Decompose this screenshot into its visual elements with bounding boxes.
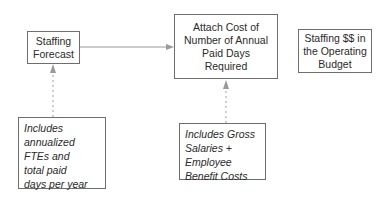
staffing-forecast-box: Staffing Forecast <box>27 31 80 64</box>
staffing-budget-box: Staffing $$ in the Operating Budget <box>298 29 372 73</box>
arrow-head-icon <box>50 64 56 73</box>
note-text: Salaries + <box>185 141 265 155</box>
note-text: Includes Gross <box>185 127 265 141</box>
box-text: Staffing <box>33 35 74 48</box>
note-text: days per year <box>24 177 105 191</box>
note-text: Benefit Costs <box>185 169 265 183</box>
note-text: FTEs and <box>24 149 105 163</box>
box-text: the Operating <box>303 45 367 58</box>
arrow-head-icon <box>223 80 229 89</box>
forecast-note-box: Includes annualized FTEs and total paid … <box>18 117 106 189</box>
box-text: Paid Days <box>184 47 268 60</box>
cost-note-box: Includes Gross Salaries + Employee Benef… <box>179 123 266 180</box>
box-text: Number of Annual <box>184 34 268 47</box>
note-text: Employee <box>185 155 265 169</box>
note-text: annualized <box>24 135 105 149</box>
box-text: Budget <box>303 58 367 71</box>
box-text: Attach Cost of <box>184 21 268 34</box>
attach-cost-box: Attach Cost of Number of Annual Paid Day… <box>174 14 278 79</box>
box-text: Staffing $$ in <box>303 32 367 45</box>
box-text: Forecast <box>33 48 74 61</box>
note-text: total paid <box>24 163 105 177</box>
box-text: Required <box>184 60 268 73</box>
note-text: Includes <box>24 121 105 135</box>
arrow-head-icon <box>166 44 174 50</box>
